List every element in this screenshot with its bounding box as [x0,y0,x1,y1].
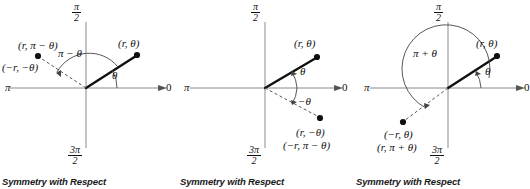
angle-label-pi-minus-theta: π − θ [58,48,82,60]
axis-label-zero: 0 [524,82,530,94]
axis-label-zero: 0 [342,82,348,94]
axis-label-pi-over-2: π 2 [72,2,81,23]
panel-3-caption: Symmetry with Respect [356,176,460,187]
axis-label-pi: π [364,82,370,94]
point-label-primary: (r, θ) [118,38,139,50]
point-label-primary: (r, θ) [476,38,497,50]
point-primary-dot [134,52,140,58]
axis-label-3pi-over-2: 3π 2 [430,145,444,166]
point-label-image-1: (r, π − θ) [18,40,58,52]
point-label-image-2: (r, π + θ) [377,142,417,154]
axis-label-pi: π [5,82,11,94]
axis-label-pi-over-2: π 2 [434,2,443,23]
panel-symmetry-vertical-line: π 2 3π 2 π 0 (r, θ) (−r, θ) (r, π + θ) θ… [352,0,529,189]
axis-label-3pi-over-2: 3π 2 [68,145,82,166]
axis-label-3pi-over-2: 3π 2 [247,145,261,166]
axis-label-pi: π [184,82,190,94]
panel-1-caption: Symmetry with Respect [2,176,106,187]
angle-arc-pi-plus-theta-arrowhead [424,103,430,109]
angle-label-theta: θ [300,66,305,78]
panel-1-graphic [0,0,177,170]
angle-label-pi-plus-theta: π + θ [413,48,437,60]
point-primary-dot [494,53,500,59]
axis-label-pi-over-2: π 2 [251,2,260,23]
ray-image [39,57,86,88]
angle-label-negative-theta: −θ [298,96,311,108]
angle-label-theta: θ [112,70,117,82]
panel-symmetry-polar-axis: π 2 3π 2 π 0 (r, θ) (r, π − θ) (−r, −θ) … [0,0,177,189]
point-label-image-1: (−r, θ) [384,129,413,141]
angle-label-theta: θ [485,66,490,78]
panel-symmetry-pole: π 2 3π 2 π 0 (r, θ) (r, −θ) (−r, π − θ) … [176,0,353,189]
axis-label-zero: 0 [166,82,172,94]
point-image-dot [400,119,406,125]
polar-symmetry-figure: π 2 3π 2 π 0 (r, θ) (r, π − θ) (−r, −θ) … [0,0,530,189]
ray-primary [265,58,316,88]
point-label-image-1: (r, −θ) [296,127,325,139]
point-label-primary: (r, θ) [294,38,315,50]
point-label-image-2: (−r, π − θ) [283,140,330,152]
point-image-dot [35,53,41,59]
point-primary-dot [314,54,320,60]
panel-2-caption: Symmetry with Respect [180,176,284,187]
angle-arc-arrowhead [56,70,61,77]
point-image-dot [317,115,323,121]
point-label-image-2: (−r, −θ) [2,62,38,74]
